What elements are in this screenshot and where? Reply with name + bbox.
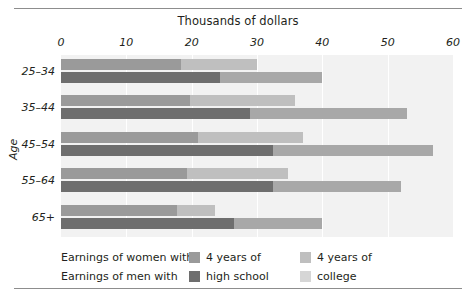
legend-label-high-school-line2: high school bbox=[206, 270, 269, 283]
segment-men-high-school bbox=[61, 218, 234, 229]
y-group-label-65+: 65+ bbox=[0, 210, 55, 223]
top-divider bbox=[14, 8, 462, 9]
legend-swatch-men-college bbox=[300, 271, 311, 282]
legend: Earnings of women with 4 years of 4 year… bbox=[61, 250, 461, 292]
legend-women-text: Earnings of women with bbox=[61, 251, 193, 264]
segment-men-college bbox=[220, 72, 323, 83]
x-tick-label: 10 bbox=[119, 36, 133, 49]
segment-women-high-school bbox=[61, 168, 187, 179]
segment-women-high-school bbox=[61, 59, 181, 70]
segment-women-college bbox=[177, 205, 215, 216]
legend-label-high-school-line1: 4 years of bbox=[206, 251, 261, 264]
chart-root: Thousands of dollars Age 0102030405060 2… bbox=[0, 0, 476, 306]
plot-area bbox=[61, 55, 453, 237]
bar-women-55–64 bbox=[61, 168, 288, 179]
segment-men-college bbox=[234, 218, 322, 229]
bar-men-45–54 bbox=[61, 145, 433, 156]
legend-swatch-women-high-school bbox=[189, 252, 200, 263]
legend-label-college-line1: 4 years of bbox=[317, 251, 372, 264]
legend-label-college-line2: college bbox=[317, 270, 356, 283]
y-group-label-45–54: 45–54 bbox=[0, 137, 55, 150]
y-group-label-55–64: 55–64 bbox=[0, 174, 55, 187]
y-group-label-25–34: 25–34 bbox=[0, 65, 55, 78]
x-tick-label: 60 bbox=[446, 36, 460, 49]
segment-women-college bbox=[181, 59, 257, 70]
y-group-label-35–44: 35–44 bbox=[0, 101, 55, 114]
legend-row-men: Earnings of men with high school college bbox=[61, 269, 461, 286]
segment-women-college bbox=[190, 95, 295, 106]
segment-women-high-school bbox=[61, 95, 190, 106]
bar-women-45–54 bbox=[61, 132, 303, 143]
segment-men-college bbox=[273, 145, 433, 156]
bar-women-25–34 bbox=[61, 59, 257, 70]
bar-men-65+ bbox=[61, 218, 322, 229]
legend-swatch-women-college bbox=[300, 252, 311, 263]
bar-women-65+ bbox=[61, 205, 215, 216]
bar-men-35–44 bbox=[61, 108, 407, 119]
x-tick-label: 40 bbox=[315, 36, 329, 49]
legend-swatch-men-high-school bbox=[189, 271, 200, 282]
segment-men-high-school bbox=[61, 72, 220, 83]
x-tick-label: 20 bbox=[185, 36, 199, 49]
legend-men-text: Earnings of men with bbox=[61, 270, 178, 283]
legend-row-women: Earnings of women with 4 years of 4 year… bbox=[61, 250, 461, 267]
segment-men-college bbox=[250, 108, 407, 119]
segment-men-college bbox=[273, 181, 400, 192]
bar-men-55–64 bbox=[61, 181, 401, 192]
segment-men-high-school bbox=[61, 181, 273, 192]
segment-women-college bbox=[198, 132, 303, 143]
segment-women-high-school bbox=[61, 132, 198, 143]
segment-women-college bbox=[187, 168, 288, 179]
gridline bbox=[453, 55, 454, 237]
bar-women-35–44 bbox=[61, 95, 295, 106]
segment-women-high-school bbox=[61, 205, 177, 216]
x-tick-label: 30 bbox=[250, 36, 264, 49]
x-tick-label: 50 bbox=[381, 36, 395, 49]
x-axis-title: Thousands of dollars bbox=[0, 14, 476, 28]
x-tick-label: 0 bbox=[58, 36, 65, 49]
segment-men-high-school bbox=[61, 145, 273, 156]
bar-men-25–34 bbox=[61, 72, 322, 83]
segment-men-high-school bbox=[61, 108, 250, 119]
